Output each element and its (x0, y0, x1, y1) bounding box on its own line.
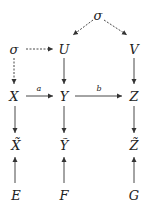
edge-sigma-top-to-v (104, 20, 127, 35)
node-z-tilde: Z̃ (129, 139, 138, 152)
node-g: G (129, 189, 139, 202)
node-y-tilde: Ỹ (60, 139, 69, 152)
node-u: U (59, 43, 70, 56)
node-e: E (11, 189, 21, 202)
node-sigma-top: σ (94, 9, 103, 22)
node-x-tilde: X̃ (11, 139, 20, 152)
node-v: V (129, 43, 138, 56)
node-y: Y (60, 90, 69, 103)
edge-label-b: b (96, 85, 101, 93)
node-sigma-left: σ (10, 43, 19, 56)
edge-label-a: a (37, 85, 42, 93)
node-x: X (9, 90, 18, 103)
node-f: F (59, 189, 68, 202)
node-z: Z (129, 90, 138, 103)
diagram-edges (0, 0, 149, 212)
edge-sigma-top-to-u (73, 20, 93, 35)
